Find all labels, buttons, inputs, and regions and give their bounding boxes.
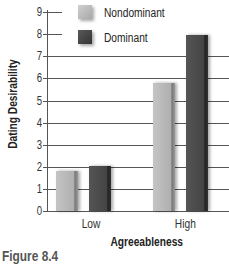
- y-tick-label: 1: [32, 183, 42, 195]
- x-axis-line: [43, 211, 229, 212]
- y-tick-label: 6: [32, 72, 42, 84]
- y-tick-label: 3: [32, 139, 42, 151]
- y-tick-label: 0: [32, 205, 42, 217]
- y-tick-label: 2: [32, 161, 42, 173]
- y-tick-label: 5: [32, 95, 42, 107]
- gridline: [43, 12, 62, 13]
- legend-label-dominant: Dominant: [104, 31, 148, 45]
- gridline: [43, 34, 62, 35]
- figure-caption: Figure 8.4: [2, 248, 58, 264]
- y-tick-label: 7: [32, 50, 42, 62]
- x-tick-label: High: [175, 217, 196, 231]
- legend-swatch-nondominant: [78, 5, 92, 19]
- bar-dominant-low: [89, 166, 111, 211]
- y-tick-label: 4: [32, 117, 42, 129]
- bar-nondominant-high: [153, 83, 175, 211]
- x-tick-label: Low: [82, 217, 101, 231]
- y-axis-title: Dating Desirability: [6, 57, 20, 151]
- y-tick-label: 9: [32, 6, 42, 18]
- bar-nondominant-low: [56, 171, 78, 211]
- y-tick-label: 8: [32, 28, 42, 40]
- bar-dominant-high: [186, 35, 208, 211]
- legend-swatch-dominant: [78, 30, 92, 44]
- y-axis-line: [47, 10, 48, 212]
- x-axis-title: Agreeableness: [110, 235, 183, 249]
- legend-label-nondominant: Nondominant: [104, 6, 165, 20]
